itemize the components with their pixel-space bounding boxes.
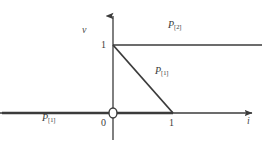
x-axis-tick-label-1: 1 [169,118,174,128]
region-label-p1-middle: P[1] [155,66,168,77]
region-label-p2-top-subscript: [2] [174,23,181,30]
curve-p1-sloped-branch [113,45,173,113]
figure-canvas: v i 1 1 0 P[1] P[1] P[2] [0,0,269,144]
region-label-p1-middle-subscript: [1] [161,69,168,76]
y-axis-tick-label-1: 1 [101,40,106,50]
region-label-p1-left: P[1] [42,113,55,124]
y-axis-label-v: v [82,25,86,35]
x-axis-label-i: i [247,116,250,126]
origin-open-circle-marker [109,108,117,118]
origin-label-0: 0 [101,118,106,128]
region-label-p1-left-subscript: [1] [48,116,55,123]
region-label-p2-top: P[2] [168,20,181,31]
vi-characteristic-plot [0,0,269,144]
